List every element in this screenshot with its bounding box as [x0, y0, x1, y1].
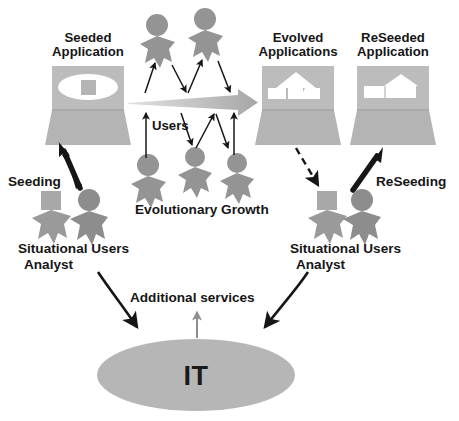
diagram-canvas: Seeded Application Evolved Applications …	[0, 0, 459, 421]
evolved-applications-base	[255, 110, 341, 145]
arrow-up-to-top-user-1	[145, 63, 155, 93]
top-user-2[interactable]	[188, 8, 223, 62]
top-user-2-head	[194, 8, 216, 30]
seeded-application-base	[45, 110, 131, 145]
diagram-svg: Seeded Application Evolved Applications …	[0, 0, 459, 421]
left-analyst[interactable]	[32, 191, 71, 244]
bottom-user-2[interactable]	[178, 147, 212, 198]
right-analyst-body	[308, 210, 347, 244]
left-user-body	[70, 211, 108, 245]
right-user-head	[351, 189, 373, 211]
bottom-user-2-body	[178, 167, 212, 198]
right-additional-services-arrow	[265, 272, 308, 327]
bottom-user-3-head	[227, 153, 247, 173]
seeded-application-label-line1: Seeded	[65, 30, 112, 45]
left-analyst-label-line1: Situational Users	[18, 241, 129, 256]
bottom-user-3[interactable]	[220, 153, 254, 204]
bottom-user-1-head	[137, 154, 159, 176]
evolved-screen-box-2	[288, 88, 303, 99]
seeding-label: Seeding	[8, 174, 61, 189]
reseeding-label: ReSeeding	[376, 174, 446, 189]
additional-services-label: Additional services	[130, 290, 255, 305]
top-user-1-body	[140, 36, 175, 68]
arrow-down-to-bottom-user-3	[216, 114, 228, 148]
it-platform-label: IT	[184, 361, 209, 391]
right-analyst-head	[317, 191, 337, 210]
right-analyst[interactable]	[308, 191, 347, 244]
seeded-screen-square	[81, 80, 96, 95]
arrow-up-from-bottom-user-2	[196, 114, 214, 148]
top-user-1-head	[146, 14, 168, 36]
bottom-user-2-head	[185, 147, 205, 167]
seeded-application-node[interactable]: Seeded Application	[45, 30, 131, 145]
evolved-applications-label-line1: Evolved	[273, 30, 324, 45]
users-label: Users	[152, 118, 189, 133]
bottom-user-1[interactable]	[131, 154, 166, 208]
bottom-user-3-body	[220, 173, 254, 204]
left-analyst-body	[32, 210, 71, 244]
reseeding-arrow-shaft	[353, 156, 377, 190]
reseeded-application-label-line1: ReSeeded	[361, 30, 425, 45]
left-user[interactable]	[70, 189, 108, 245]
arrow-down-from-top-user-2	[218, 61, 230, 92]
evolved-applications-node[interactable]: Evolved Applications	[255, 30, 341, 145]
seeding-arrow	[58, 141, 82, 189]
evolved-to-analyst-dashed-arrow	[296, 148, 318, 185]
reseeded-application-base	[350, 110, 436, 145]
left-user-head	[78, 189, 100, 211]
evolved-applications-label-line2: Applications	[258, 44, 337, 59]
evolutionary-growth-label: Evolutionary Growth	[135, 202, 269, 217]
reseeded-application-label-line2: Application	[357, 44, 429, 59]
seeded-application-label-line2: Application	[52, 44, 124, 59]
reseeded-application-node[interactable]: ReSeeded Application	[350, 30, 436, 145]
evolutionary-growth-arrow	[128, 89, 258, 116]
arrow-down-from-top-user-1	[172, 65, 186, 92]
right-user[interactable]	[343, 189, 381, 245]
arrow-up-to-top-user-2	[188, 60, 202, 93]
top-user-1[interactable]	[140, 14, 175, 68]
right-analyst-label-line1: Situational Users	[290, 241, 401, 256]
top-user-2-body	[188, 30, 223, 62]
it-platform-node[interactable]: IT	[97, 339, 295, 411]
left-analyst-head	[41, 191, 61, 210]
right-analyst-label-line2: Analyst	[296, 257, 346, 272]
growth-arrow-shape	[128, 89, 258, 116]
right-user-body	[343, 211, 381, 245]
left-analyst-label-line2: Analyst	[24, 257, 74, 272]
reseeded-screen-bar	[364, 86, 416, 98]
evolved-screen-box-1	[268, 88, 286, 99]
